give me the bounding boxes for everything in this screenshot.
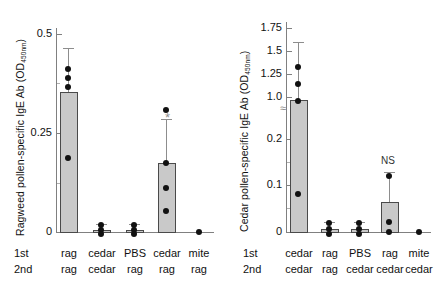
x-axis-row-label-1st: 1st: [14, 247, 29, 259]
y-tick-1.75: [287, 28, 292, 29]
data-point: [326, 231, 332, 237]
error-bar-cap: [293, 42, 304, 43]
data-point: [386, 219, 392, 225]
data-point: [295, 64, 301, 70]
data-point: [131, 231, 137, 237]
data-point: [326, 220, 332, 226]
x-label-group-0-second: rag: [61, 263, 77, 275]
data-point: [98, 231, 104, 237]
y-tick-label-0: 0: [6, 225, 52, 237]
x-label-group-2-second: rag: [127, 263, 143, 275]
y-tick-minor-0.375: [57, 83, 60, 84]
significance-marker-star: *: [165, 110, 170, 125]
y-tick-label-0: 0: [230, 225, 282, 237]
data-point: [163, 185, 169, 191]
y-tick-label-0.1: 0.1: [230, 178, 282, 190]
x-label-group-1-second: cedar: [88, 263, 116, 275]
data-point: [295, 81, 301, 87]
y-tick-label-1.25: 1.25: [230, 67, 282, 79]
data-point: [65, 155, 71, 161]
axis-break-symbol: ≈: [280, 103, 286, 114]
x-label-group-4-second: rag: [191, 263, 207, 275]
x-label-group-2-first: PBS: [349, 247, 371, 259]
error-bar: [298, 42, 299, 102]
x-label-group-0-first: rag: [61, 247, 77, 259]
x-label-group-4-first: mite: [189, 247, 210, 259]
data-point: [386, 229, 392, 235]
bar-rag-rag: [60, 92, 78, 233]
data-point: [356, 231, 362, 237]
data-point: [356, 220, 362, 226]
y-tick-label-0.5: 0.5: [6, 27, 52, 39]
y-tick-1.25: [287, 74, 292, 75]
x-axis-row-label-2nd: 2nd: [243, 263, 261, 275]
bar-cedar-cedar: [290, 100, 308, 233]
y-tick-label-0.2: 0.2: [230, 132, 282, 144]
y-tick-label-1.5: 1.5: [230, 44, 282, 56]
x-label-group-1-first: rag: [322, 247, 338, 259]
x-label-group-4-first: mite: [409, 247, 430, 259]
x-label-group-3-first: rag: [382, 247, 398, 259]
y-tick-1.0: [287, 97, 292, 98]
data-point: [295, 191, 301, 197]
error-bar: [166, 119, 167, 164]
x-label-group-4-second: cedar: [405, 263, 433, 275]
significance-marker-ns: NS: [381, 155, 395, 166]
x-label-group-0-first: cedar: [285, 247, 313, 259]
x-axis-row-label-2nd: 2nd: [14, 263, 32, 275]
data-point: [163, 160, 169, 166]
x-label-group-1-second: rag: [322, 263, 338, 275]
chart-panel-cedar: Cedar pollen-specific IgE Ab (OD450nm) ≈…: [218, 0, 436, 281]
x-label-group-3-second: rag: [159, 263, 175, 275]
data-point: [386, 173, 392, 179]
error-bar-cap: [63, 48, 74, 49]
data-point: [131, 222, 137, 228]
data-point: [65, 84, 71, 90]
x-label-group-0-second: cedar: [285, 263, 313, 275]
x-label-group-3-second: cedar: [376, 263, 404, 275]
data-point: [295, 98, 301, 104]
figure-root: Ragweed pollen-specific IgE Ab (OD450nm)…: [0, 0, 436, 281]
y-tick-1.5: [287, 51, 292, 52]
data-point: [196, 229, 202, 235]
data-point: [416, 229, 422, 235]
x-axis-row-label-1st: 1st: [243, 247, 258, 259]
y-axis-title-subscript: 450nm: [20, 42, 27, 62]
y-axis-line: [56, 28, 57, 233]
chart-panel-ragweed: Ragweed pollen-specific IgE Ab (OD450nm)…: [0, 0, 218, 281]
x-label-group-2-first: PBS: [124, 247, 146, 259]
bar-cedar-rag: [158, 163, 176, 233]
y-tick-0.5: [57, 34, 62, 35]
x-label-group-3-first: cedar: [153, 247, 181, 259]
data-point: [65, 66, 71, 72]
y-axis-line: [286, 22, 287, 233]
x-label-group-2-second: cedar: [346, 263, 374, 275]
x-label-group-1-first: cedar: [88, 247, 116, 259]
y-axis-title-text: Ragweed pollen-specific IgE Ab (OD: [14, 63, 26, 236]
y-tick-label-1.0: 1.0: [230, 90, 282, 102]
data-point: [98, 222, 104, 228]
data-point: [65, 75, 71, 81]
data-point: [163, 208, 169, 214]
y-tick-label-0.25: 0.25: [6, 126, 52, 138]
y-tick-label-1.75: 1.75: [230, 21, 282, 33]
